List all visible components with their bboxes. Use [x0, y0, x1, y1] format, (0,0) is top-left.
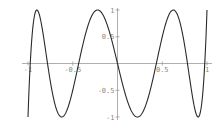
y-axis-ticks: 10.5-0.5-1 — [98, 7, 120, 122]
axes — [22, 8, 212, 120]
chebyshev-plot: -1-0.50.51 10.5-0.5-1 — [0, 0, 221, 129]
x-tick-label: -1 — [24, 66, 32, 74]
x-tick-label: -0.5 — [64, 66, 81, 74]
y-tick-label: -0.5 — [98, 87, 115, 95]
y-tick-label: -1 — [106, 114, 114, 122]
y-tick-label: 0.5 — [102, 33, 115, 41]
y-tick-label: 1 — [110, 7, 114, 15]
x-tick-label: 0.5 — [156, 66, 169, 74]
x-tick-label: 1 — [205, 66, 209, 74]
